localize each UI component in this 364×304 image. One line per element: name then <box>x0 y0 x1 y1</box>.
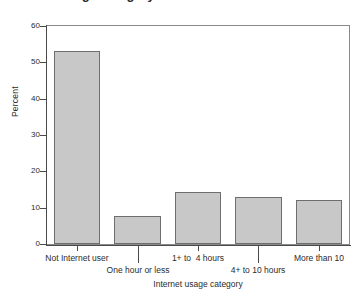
bar <box>296 200 342 244</box>
x-axis-tick <box>258 246 259 263</box>
x-axis-tick-label: More than 10 <box>294 253 344 263</box>
y-axis-tick-label: 20 <box>0 166 40 175</box>
bar <box>54 51 100 244</box>
bar <box>235 197 281 244</box>
y-axis-tick-label: 40 <box>0 94 40 103</box>
y-axis-tick <box>40 99 46 100</box>
x-axis-tick-label: 1+ to 4 hours <box>172 253 224 263</box>
bar-chart-figure: 0102030405060 Percent Not Internet userO… <box>0 0 364 304</box>
bars-layer <box>47 26 349 244</box>
y-axis-tick-label: 0 <box>0 239 40 248</box>
y-axis-tick <box>40 171 46 172</box>
x-axis-tick-label: 4+ to 10 hours <box>231 265 286 275</box>
x-axis-tick-label: Not Internet user <box>45 253 108 263</box>
plot-area <box>46 25 350 245</box>
x-axis-tick <box>319 246 320 251</box>
bar <box>114 216 160 244</box>
x-axis-tick <box>138 246 139 263</box>
y-axis-tick <box>40 26 46 27</box>
y-axis-title: Percent <box>10 86 20 117</box>
y-axis-line <box>46 25 47 246</box>
x-axis-title: Internet usage category <box>153 279 242 289</box>
y-axis-tick <box>40 208 46 209</box>
y-axis-tick-label: 60 <box>0 21 40 30</box>
y-axis-tick <box>40 135 46 136</box>
x-axis-tick-label: One hour or less <box>107 265 170 275</box>
y-axis-tick-label: 10 <box>0 203 40 212</box>
y-axis-tick-label: 30 <box>0 130 40 139</box>
y-axis-tick <box>40 62 46 63</box>
x-axis-tick <box>77 246 78 251</box>
chart-screenshot: Internet usage category bar chart 010203… <box>0 0 364 304</box>
x-axis-tick <box>198 246 199 251</box>
bar <box>175 192 221 244</box>
y-axis-tick-label: 50 <box>0 57 40 66</box>
